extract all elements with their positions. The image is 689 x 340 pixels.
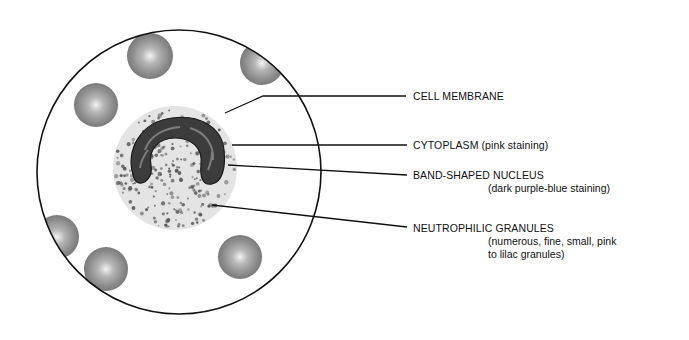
leader-line-band-nucleus (228, 165, 407, 175)
neutrophil (113, 106, 237, 230)
red-blood-cell (218, 235, 262, 279)
red-blood-cell (74, 83, 118, 127)
label-granules-detail-2: to lilac granules) (488, 248, 564, 261)
label-neutrophilic-granules: NEUTROPHILIC GRANULES (413, 222, 554, 235)
red-blood-cell (35, 215, 79, 259)
diagram-canvas (0, 0, 689, 340)
leader-line-cell-membrane (225, 96, 406, 113)
red-blood-cell (127, 33, 173, 79)
label-cell-membrane: CELL MEMBRANE (413, 90, 504, 103)
leader-line-granules (212, 205, 407, 227)
label-cytoplasm: CYTOPLASM (pink staining) (413, 139, 548, 152)
red-blood-cell (84, 247, 128, 291)
label-band-nucleus: BAND-SHAPED NUCLEUS (413, 169, 544, 182)
label-granules-detail-1: (numerous, fine, small, pink (488, 235, 616, 248)
label-band-nucleus-detail: (dark purple-blue staining) (488, 182, 610, 195)
